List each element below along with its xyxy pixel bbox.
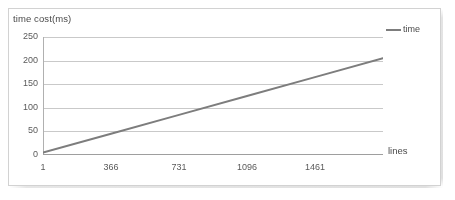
x-axis-title: lines: [388, 145, 408, 156]
plot-area: [43, 37, 383, 155]
y-axis-tick-labels: 050100150200250: [14, 0, 38, 200]
y-axis-tick-label: 200: [23, 56, 38, 65]
legend-line-swatch-time: [386, 29, 401, 31]
x-axis-tick-label: 366: [103, 163, 118, 172]
x-axis-tick-label: 1096: [237, 163, 257, 172]
x-axis-tick-label: 1461: [305, 163, 325, 172]
chart-legend: time: [386, 25, 420, 34]
x-axis-tick-label: 731: [171, 163, 186, 172]
y-axis-tick-label: 100: [23, 103, 38, 112]
gridlines: [43, 38, 383, 132]
legend-label-time: time: [403, 25, 420, 34]
y-axis-tick-label: 50: [28, 126, 38, 135]
x-axis-tick-label: 1: [40, 163, 45, 172]
scan-edge-shadow-bottom: [9, 186, 443, 188]
y-axis-tick-label: 150: [23, 79, 38, 88]
scan-edge-shadow-right: [441, 9, 443, 187]
y-axis-tick-label: 0: [33, 150, 38, 159]
plot-canvas: [43, 37, 383, 155]
y-axis-tick-label: 250: [23, 32, 38, 41]
data-series-time: [43, 58, 383, 152]
